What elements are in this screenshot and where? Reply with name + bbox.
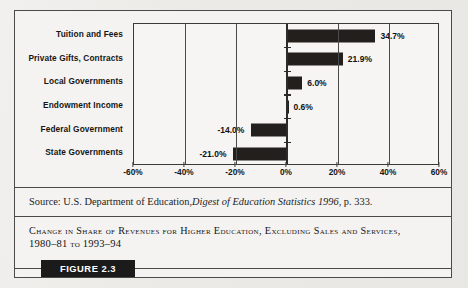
bar-5 (233, 148, 287, 161)
caption-connector: to (70, 238, 80, 249)
caption-line-1: Change in Share of Revenues for Higher E… (29, 224, 437, 237)
bar-4 (251, 124, 287, 137)
gridline--20 (236, 24, 237, 164)
bar-value-label-0: 34.7% (380, 31, 404, 41)
source-suffix: , p. 333. (339, 196, 373, 207)
gridline-40 (389, 24, 390, 164)
x-tick-label-1: -40% (174, 167, 193, 177)
category-label-2: Local Governments (44, 70, 123, 94)
bar-value-label-3: 0.6% (294, 102, 313, 112)
gridline--40 (185, 24, 186, 164)
zero-axis-line (286, 24, 288, 164)
figure-frame: Tuition and FeesPrivate Gifts, Contracts… (14, 10, 452, 278)
value-axis: -60%-40%-20%0%20%40%60% (133, 167, 439, 183)
gridline-20 (338, 24, 339, 164)
category-axis: Tuition and FeesPrivate Gifts, Contracts… (15, 23, 129, 165)
bar-1 (287, 53, 343, 66)
category-label-3: Endowment Income (43, 94, 123, 118)
category-label-4: Federal Government (41, 118, 124, 142)
bar-value-label-5: -21.0% (200, 149, 227, 159)
x-tick-label-3: 0% (280, 167, 292, 177)
category-label-1: Private Gifts, Contracts (28, 47, 123, 71)
x-tick-label-4: 20% (329, 167, 346, 177)
x-tick-label-0: -60% (123, 167, 142, 177)
caption-year-start: 1980–81 (29, 238, 67, 249)
x-tick-label-2: -20% (225, 167, 244, 177)
figure-number-badge: FIGURE 2.3 (41, 260, 135, 277)
category-label-0: Tuition and Fees (56, 23, 123, 47)
x-tick-label-5: 40% (380, 167, 397, 177)
plot-area: 34.7%21.9%6.0%0.6%-14.0%-21.0% (133, 23, 439, 165)
bar-value-label-1: 21.9% (348, 54, 372, 64)
source-title: Digest of Education Statistics 1996 (192, 196, 339, 207)
source-prefix: Source: U.S. Department of Education, (29, 196, 192, 207)
bar-2 (287, 77, 302, 90)
caption-year-end: 1993–94 (83, 238, 121, 249)
bar-0 (287, 29, 375, 42)
figure-caption: Change in Share of Revenues for Higher E… (15, 217, 451, 251)
bar-value-label-4: -14.0% (217, 125, 244, 135)
source-note: Source: U.S. Department of Education, Di… (15, 188, 451, 214)
bar-chart: Tuition and FeesPrivate Gifts, Contracts… (15, 11, 451, 187)
bar-value-label-2: 6.0% (307, 78, 326, 88)
category-label-5: State Governments (45, 141, 123, 165)
caption-line-2: 1980–81 to 1993–94 (29, 237, 437, 251)
x-tick-label-6: 60% (431, 167, 448, 177)
